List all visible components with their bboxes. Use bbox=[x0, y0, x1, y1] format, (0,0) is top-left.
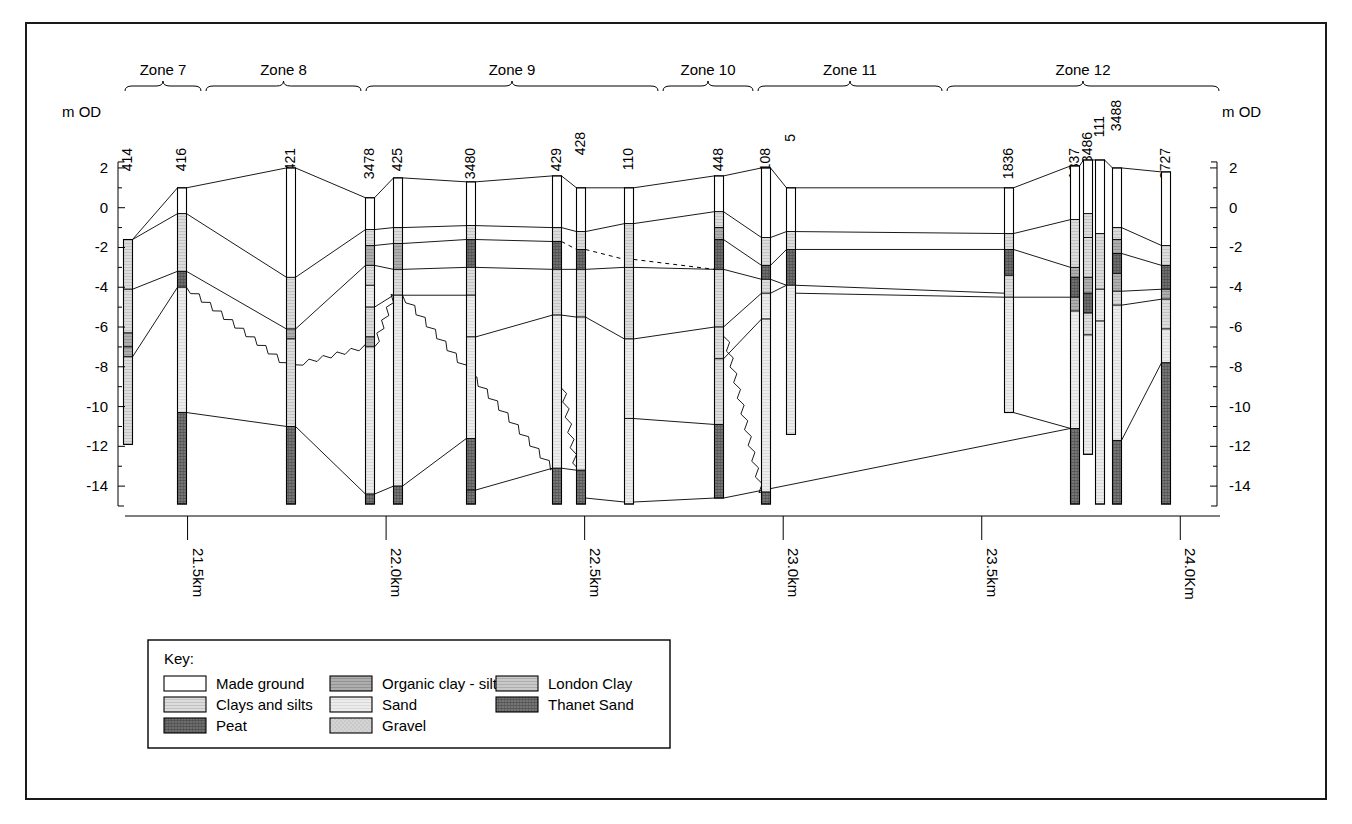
borehole-layer bbox=[787, 249, 796, 285]
x-axis-tick-label: 24.0Km bbox=[1182, 548, 1199, 600]
borehole-layer bbox=[1096, 160, 1105, 234]
correlation-line bbox=[586, 224, 625, 232]
y-axis-right: 20-2-4-6-8-10-12-14 bbox=[1210, 159, 1251, 506]
borehole-columns bbox=[124, 160, 1171, 504]
borehole-layer bbox=[787, 188, 796, 232]
y-axis-tick-label: -2 bbox=[1229, 238, 1242, 255]
borehole-column bbox=[1162, 172, 1171, 504]
borehole-layer bbox=[124, 289, 133, 333]
borehole-layer bbox=[467, 267, 476, 295]
borehole-layer bbox=[467, 295, 476, 337]
correlation-line bbox=[133, 287, 178, 357]
borehole-layer bbox=[787, 285, 796, 434]
borehole-layer bbox=[467, 337, 476, 438]
borehole-layer bbox=[366, 337, 375, 347]
borehole-column bbox=[1096, 160, 1105, 504]
borehole-column bbox=[178, 188, 187, 504]
correlation-line bbox=[796, 293, 1005, 297]
key-swatch bbox=[496, 697, 538, 712]
x-axis-tick-label: 21.5km bbox=[190, 548, 207, 597]
correlation-line bbox=[562, 315, 577, 317]
y-axis-tick-label: 0 bbox=[100, 199, 108, 216]
erosion-boundary-sawtooth bbox=[375, 294, 394, 347]
correlation-line bbox=[476, 176, 553, 182]
borehole-layer bbox=[1113, 168, 1122, 228]
correlation-line bbox=[187, 214, 287, 278]
borehole-layer bbox=[1071, 428, 1080, 504]
correlation-line bbox=[1122, 253, 1162, 265]
key-item-label: Sand bbox=[382, 696, 417, 713]
erosion-boundary-sawtooth bbox=[296, 345, 366, 365]
correlation-line bbox=[403, 240, 467, 244]
borehole-layer bbox=[1096, 289, 1105, 321]
key-swatch bbox=[330, 718, 372, 733]
correlation-line bbox=[1105, 160, 1113, 168]
y-axis-tick-label: 2 bbox=[1229, 159, 1237, 176]
zone-bracket bbox=[206, 81, 361, 91]
borehole-layer bbox=[715, 212, 724, 228]
borehole-id-label: 3480 bbox=[462, 148, 478, 179]
x-axis-tick-label: 22.5km bbox=[587, 548, 604, 597]
borehole-column bbox=[124, 240, 133, 445]
borehole-layer bbox=[287, 329, 296, 339]
correlation-line bbox=[1122, 228, 1162, 246]
borehole-layer bbox=[1113, 228, 1122, 240]
zone-label: Zone 9 bbox=[489, 61, 536, 78]
y-axis-tick-label: -14 bbox=[86, 477, 108, 494]
borehole-id-label: 428 bbox=[572, 132, 588, 156]
borehole-layer bbox=[1162, 363, 1171, 504]
y-axis-tick-label: -4 bbox=[1229, 278, 1242, 295]
key-swatch bbox=[496, 676, 538, 691]
borehole-layer bbox=[366, 307, 375, 337]
borehole-layer bbox=[467, 182, 476, 226]
correlation-line bbox=[724, 168, 762, 176]
x-axis-tick-label: 23.5km bbox=[984, 548, 1001, 597]
borehole-column bbox=[1071, 166, 1080, 504]
y-axis-tick-label: 2 bbox=[100, 159, 108, 176]
correlation-line bbox=[634, 212, 715, 224]
borehole-layer bbox=[366, 230, 375, 246]
borehole-layer bbox=[1162, 299, 1171, 329]
y-axis-tick-label: -6 bbox=[95, 318, 108, 335]
correlation-line bbox=[403, 178, 467, 182]
x-axis-distance: 21.5km22.0km22.5km23.0km23.5km24.0Km bbox=[125, 516, 1220, 600]
y-axis-tick-label: 0 bbox=[1229, 199, 1237, 216]
cross-section-canvas: Zone 7Zone 8Zone 9Zone 10Zone 11Zone 12 … bbox=[0, 0, 1352, 824]
y-axis-tick-label: -8 bbox=[95, 358, 108, 375]
borehole-layer bbox=[178, 214, 187, 272]
borehole-layer bbox=[762, 492, 771, 504]
correlation-line bbox=[724, 428, 1071, 498]
borehole-layer bbox=[1084, 160, 1093, 214]
borehole-layer bbox=[553, 176, 562, 228]
borehole-layer bbox=[1005, 188, 1014, 234]
borehole-column bbox=[553, 176, 562, 504]
correlation-line bbox=[403, 226, 467, 228]
borehole-column bbox=[787, 188, 796, 435]
correlation-line bbox=[562, 228, 577, 232]
correlation-line bbox=[1014, 166, 1071, 188]
borehole-layer bbox=[715, 269, 724, 327]
key-item-label: Gravel bbox=[382, 717, 426, 734]
correlation-line bbox=[1014, 249, 1071, 267]
borehole-layer bbox=[553, 315, 562, 468]
borehole-layer bbox=[715, 359, 724, 425]
correlation-line bbox=[476, 240, 553, 242]
correlation-line bbox=[724, 240, 762, 266]
correlation-line bbox=[634, 267, 715, 269]
zone-label: Zone 10 bbox=[680, 61, 735, 78]
key-item-label: Made ground bbox=[216, 675, 304, 692]
borehole-layer bbox=[1113, 253, 1122, 273]
borehole-layer bbox=[394, 295, 403, 486]
borehole-column bbox=[1005, 188, 1014, 413]
correlation-line bbox=[796, 232, 1005, 234]
borehole-layer bbox=[553, 269, 562, 315]
correlation-line bbox=[476, 267, 553, 269]
borehole-layer bbox=[1162, 289, 1171, 299]
key-item-label: London Clay bbox=[548, 675, 633, 692]
correlation-line bbox=[771, 232, 787, 238]
borehole-layer bbox=[394, 269, 403, 295]
borehole-layer bbox=[715, 176, 724, 212]
borehole-layer bbox=[394, 228, 403, 244]
borehole-id-label: 110 bbox=[620, 148, 636, 171]
correlation-line bbox=[296, 426, 366, 494]
